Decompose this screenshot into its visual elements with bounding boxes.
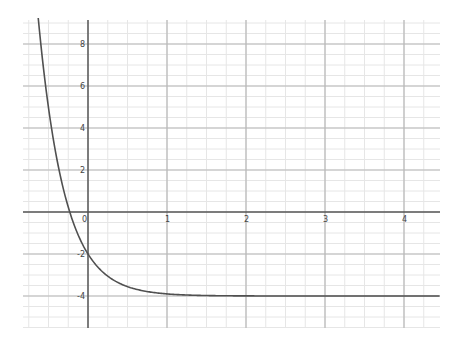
x-tick-label: 1 (165, 215, 170, 224)
y-tick-label: 6 (80, 82, 85, 91)
x-tick-label: 2 (244, 215, 249, 224)
y-tick-label: 8 (80, 40, 85, 49)
major-grid (23, 20, 440, 328)
y-tick-label: -4 (77, 292, 85, 301)
x-tick-label: 3 (323, 215, 328, 224)
minor-grid (23, 20, 440, 328)
y-tick-label: 4 (80, 124, 85, 133)
x-tick-label: 4 (402, 215, 407, 224)
x-tick-label: 0 (82, 215, 87, 224)
y-tick-label: -2 (77, 250, 85, 259)
function-graph: 012348642-2-4 (0, 0, 461, 344)
axes (23, 20, 440, 328)
y-tick-label: 2 (80, 166, 85, 175)
